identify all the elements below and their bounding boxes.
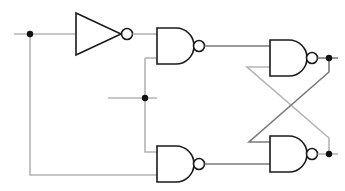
nand-gate-bottom-left-bubble bbox=[194, 159, 205, 170]
data-input-junction bbox=[27, 31, 33, 37]
nand-gate-bottom-right bbox=[270, 136, 318, 172]
q-bar-output-junction bbox=[326, 151, 332, 157]
not-gate-bubble bbox=[122, 29, 133, 40]
nand-gate-top-right-bubble bbox=[307, 53, 318, 64]
not-gate bbox=[76, 13, 133, 55]
nand-gate-top-left bbox=[157, 28, 205, 64]
enable-input-wire bbox=[108, 58, 157, 152]
nand-gate-top-left-bubble bbox=[194, 41, 205, 52]
nand-gate-top-right bbox=[270, 40, 318, 76]
logic-circuit-diagram bbox=[0, 0, 345, 191]
nand-gate-bottom-right-bubble bbox=[307, 149, 318, 160]
enable-input-junction bbox=[142, 95, 148, 101]
nand-gate-bottom-left bbox=[157, 146, 205, 182]
q-output-junction bbox=[326, 55, 332, 61]
data-input-wire bbox=[14, 34, 157, 175]
